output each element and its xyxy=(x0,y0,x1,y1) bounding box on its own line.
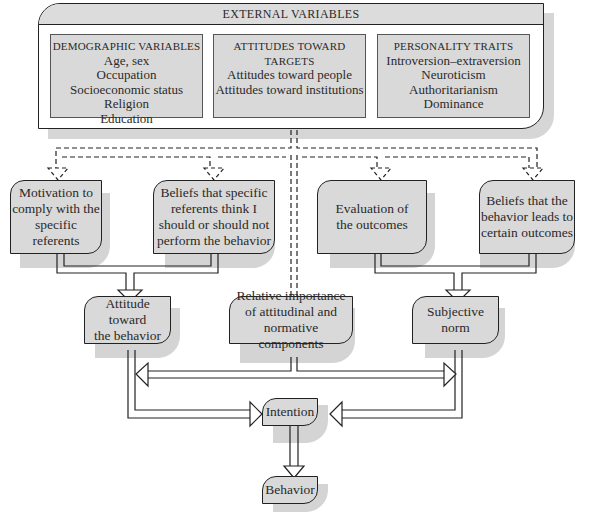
connector-lines xyxy=(0,0,590,516)
subjective-norm-node: Subjective norm xyxy=(412,296,499,344)
behavioral-beliefs-node: Beliefs that the behavior leads to certa… xyxy=(479,180,575,254)
relative-importance-node: Relative importance of attitudinal and n… xyxy=(229,296,353,344)
intention-node: Intention xyxy=(262,398,318,426)
normative-beliefs-node: Beliefs that specific referents think I … xyxy=(153,180,275,254)
attitude-toward-behavior-node: Attitude toward the behavior xyxy=(84,296,171,344)
motivation-to-comply-node: Motivation to comply with the specific r… xyxy=(10,180,102,254)
behavior-node: Behavior xyxy=(262,476,318,504)
evaluation-of-outcomes-node: Evaluation of the outcomes xyxy=(317,180,427,254)
